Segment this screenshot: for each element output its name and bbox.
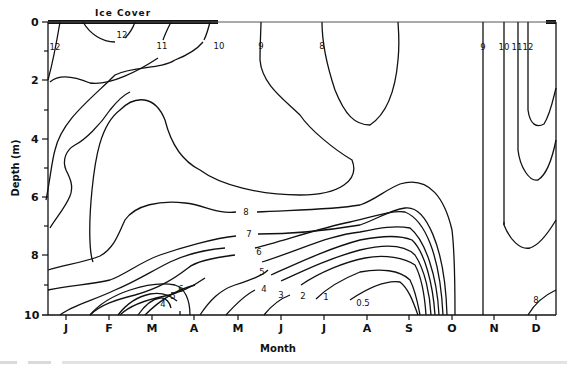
x-tick-jun: J [278, 322, 283, 335]
contour-label-11: 11 [157, 41, 168, 51]
x-tick-apr: A [190, 322, 199, 335]
depth-time-contour-chart: Ice Cover 0 2 4 6 8 10 Depth (m) [0, 0, 567, 367]
y-axis-title: Depth (m) [10, 139, 21, 196]
contour-label-10: 10 [214, 41, 225, 51]
contour-label-1: 1 [323, 292, 328, 302]
x-tick-feb: F [105, 322, 113, 335]
contour-label-6-mar: 6 [178, 284, 183, 294]
x-tick-may: M [233, 322, 244, 335]
contour-label-6: 6 [256, 247, 261, 257]
x-ticks [66, 315, 536, 320]
contour-label-3: 3 [278, 290, 283, 300]
contour-lines [46, 22, 556, 315]
y-tick-4: 4 [31, 133, 39, 146]
y-tick-6: 6 [31, 191, 39, 204]
x-tick-mar: M [147, 322, 158, 335]
x-tick-jan: J [63, 322, 68, 335]
contour-label-5-mar: 5 [170, 291, 175, 301]
x-tick-dec: D [531, 322, 540, 335]
contour-label-4: 4 [261, 284, 266, 294]
ice-cover-label: Ice Cover [95, 8, 151, 18]
x-tick-oct: O [447, 322, 456, 335]
x-axis-title: Month [260, 343, 296, 354]
contour-label-8-dec: 8 [533, 295, 538, 305]
contour-label-12-left: 12 [50, 42, 61, 52]
x-tick-labels: J F M A M J J A S O N D [63, 322, 541, 335]
y-tick-labels: 0 2 4 6 8 10 [24, 16, 40, 322]
contour-label-4-mar: 4 [160, 299, 165, 309]
y-tick-2: 2 [31, 74, 39, 87]
contour-label-0.5: 0.5 [356, 298, 370, 308]
contour-label-10-right: 10 [499, 42, 510, 52]
x-tick-jul: J [321, 322, 326, 335]
contour-label-9-right: 9 [480, 42, 485, 52]
contour-label-8: 8 [243, 207, 248, 217]
y-tick-10: 10 [24, 309, 40, 322]
y-tick-8: 8 [31, 249, 39, 262]
contour-label-12-right: 12 [523, 42, 534, 52]
contour-label-9: 9 [258, 41, 263, 51]
contour-label-8-top: 8 [319, 41, 324, 51]
contour-label-12-top: 12 [117, 30, 128, 40]
contour-label-2: 2 [300, 291, 305, 301]
contour-label-7: 7 [246, 229, 251, 239]
y-tick-0: 0 [31, 16, 39, 29]
x-tick-nov: N [489, 322, 498, 335]
x-tick-aug: A [363, 322, 372, 335]
x-tick-sep: S [405, 322, 413, 335]
contour-label-5: 5 [259, 267, 264, 277]
contour-label-11-right: 11 [512, 42, 523, 52]
y-ticks [42, 22, 48, 285]
truncated-caption [0, 358, 567, 367]
